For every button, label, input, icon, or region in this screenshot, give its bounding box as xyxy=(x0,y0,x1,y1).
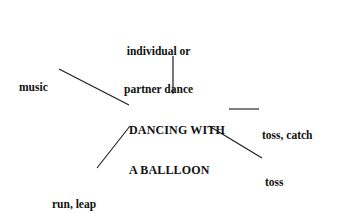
node-dance-line1: individual or xyxy=(124,45,193,58)
node-center-dancing-with-a-ballloon: DANCING WITH A BALLLOON xyxy=(129,97,225,205)
node-center-line1: DANCING WITH xyxy=(129,124,225,137)
node-toss-line: toss xyxy=(265,176,291,189)
node-run-leap: run, leap xyxy=(52,172,96,213)
node-center-line2: A BALLLOON xyxy=(129,164,225,177)
node-toss-catch-label: toss, catch xyxy=(262,129,312,142)
node-dance-line2: partner dance xyxy=(124,83,193,96)
node-run-leap-label: run, leap xyxy=(52,198,96,211)
diagram-canvas: individual or partner dance music DANCIN… xyxy=(0,0,344,213)
node-music: music xyxy=(19,55,48,119)
node-toss-turn-catch: toss turn catch xyxy=(265,150,291,213)
node-music-label: music xyxy=(19,81,48,94)
